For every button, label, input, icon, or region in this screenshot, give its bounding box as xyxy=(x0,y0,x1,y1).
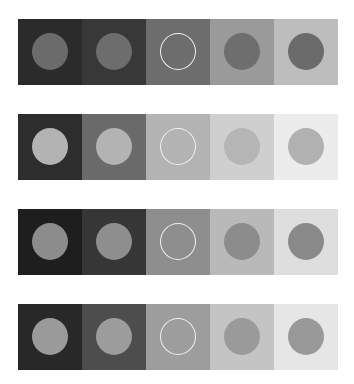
test-disk xyxy=(96,223,132,260)
test-disk xyxy=(32,33,68,70)
test-disk xyxy=(224,223,260,260)
stimulus-row-2 xyxy=(18,114,338,180)
test-disk xyxy=(32,128,68,165)
test-disk xyxy=(288,223,324,260)
reference-outlined-disk xyxy=(160,223,196,260)
background-square xyxy=(146,304,210,370)
background-square xyxy=(18,114,82,180)
background-square xyxy=(274,304,338,370)
background-square xyxy=(210,19,274,85)
background-square xyxy=(210,114,274,180)
stimulus-row-3 xyxy=(18,209,338,275)
test-disk xyxy=(96,33,132,70)
contrast-illusion-figure xyxy=(0,0,354,384)
background-square xyxy=(274,19,338,85)
test-disk xyxy=(32,223,68,260)
test-disk xyxy=(96,128,132,165)
background-square xyxy=(82,19,146,85)
test-disk xyxy=(288,33,324,70)
background-square xyxy=(210,209,274,275)
test-disk xyxy=(32,318,68,355)
test-disk xyxy=(224,33,260,70)
background-square xyxy=(18,19,82,85)
stimulus-row-1 xyxy=(18,19,338,85)
reference-outlined-disk xyxy=(160,33,196,70)
background-square xyxy=(146,114,210,180)
reference-outlined-disk xyxy=(160,128,196,165)
background-square xyxy=(210,304,274,370)
stimulus-row-4 xyxy=(18,304,338,370)
test-disk xyxy=(96,318,132,355)
test-disk xyxy=(288,128,324,165)
reference-outlined-disk xyxy=(160,318,196,355)
background-square xyxy=(274,209,338,275)
background-square xyxy=(146,19,210,85)
test-disk xyxy=(224,128,260,165)
test-disk xyxy=(288,318,324,355)
background-square xyxy=(274,114,338,180)
background-square xyxy=(82,114,146,180)
background-square xyxy=(82,304,146,370)
background-square xyxy=(18,209,82,275)
background-square xyxy=(82,209,146,275)
test-disk xyxy=(224,318,260,355)
background-square xyxy=(18,304,82,370)
background-square xyxy=(146,209,210,275)
